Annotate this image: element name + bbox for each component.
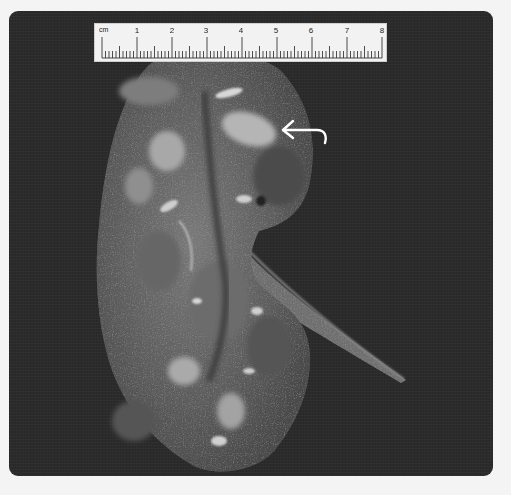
photo-panel: cm 1 2 3 4 5 6 7 8 bbox=[9, 11, 493, 476]
cm-ruler: cm 1 2 3 4 5 6 7 8 bbox=[94, 23, 387, 62]
ruler-ticks bbox=[95, 24, 386, 61]
curved-arrow-icon bbox=[279, 116, 331, 148]
kidney-specimen bbox=[9, 11, 493, 476]
